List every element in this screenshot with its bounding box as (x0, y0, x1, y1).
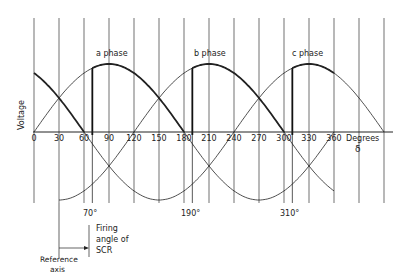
x-tick-label: 360 (326, 134, 341, 143)
phase-curve (259, 132, 334, 200)
x-tick-label: 210 (201, 134, 216, 143)
phase-label-c: c phase (292, 49, 323, 58)
x-tick-label: 240 (226, 134, 241, 143)
vertical-gridlines (34, 18, 384, 203)
x-tick-labels: 0306090120150180210240270300330360 (31, 134, 341, 143)
phase-curve (159, 132, 234, 200)
firing-angle-label-310: 310° (280, 209, 299, 218)
x-axis-label: Degrees (346, 134, 379, 143)
phase-label-a: a phase (96, 49, 128, 58)
x-tick-label: 120 (126, 134, 141, 143)
x-tick-label: 300 (276, 134, 291, 143)
phase-curve (92, 64, 184, 132)
firing-angle-label-70: 70° (83, 209, 97, 218)
phase-curve (59, 132, 134, 200)
arrow-head-icon (84, 246, 89, 250)
reference-line1: Reference (40, 255, 78, 264)
phase-curve (184, 132, 259, 200)
x-tick-label: 0 (31, 134, 36, 143)
annotation-line3: SCR (96, 246, 113, 255)
phase-curve (192, 64, 284, 132)
x-axis-symbol: δ (355, 144, 361, 154)
waveform-diagram: 0306090120150180210240270300330360 Volta… (0, 0, 405, 280)
x-tick-label: 60 (79, 134, 89, 143)
x-tick-label: 150 (151, 134, 166, 143)
x-tick-label: 330 (301, 134, 316, 143)
phase-curve (292, 64, 334, 73)
x-tick-label: 90 (104, 134, 114, 143)
x-tick-label: 30 (54, 134, 64, 143)
x-tick-label: 180 (176, 134, 191, 143)
x-tick-label: 270 (251, 134, 266, 143)
firing-angle-label-190: 190° (181, 209, 200, 218)
phase-curve (84, 132, 159, 200)
reference-line2: axis (50, 265, 65, 274)
annotation-line2: angle of (96, 235, 129, 244)
phase-label-b: b phase (194, 49, 226, 58)
y-axis-label: Voltage (17, 100, 26, 130)
annotation-line1: Firing (96, 224, 118, 233)
